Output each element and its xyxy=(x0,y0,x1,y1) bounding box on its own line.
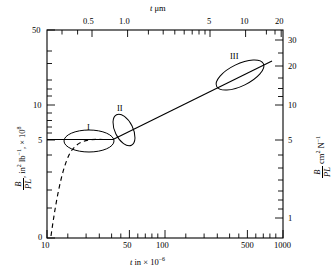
top-tick-label-1: 1.0 xyxy=(119,17,130,26)
right-tick-label-3: 5 xyxy=(288,136,292,145)
top-tick-label-4: 20 xyxy=(275,17,284,26)
right-tick-label-4: 1 xyxy=(288,214,292,223)
region-ellipse-I xyxy=(64,130,114,152)
top-axis-title: t μm xyxy=(150,4,166,13)
right-axis-title-sup1: 2 xyxy=(315,151,321,154)
bottom-axis-title-exp: −6 xyxy=(159,256,165,262)
right-axis-title-text: cm xyxy=(316,154,326,167)
left-axis-ticks xyxy=(47,30,55,238)
right-axis-title-sup2: −1 xyxy=(315,136,321,142)
bottom-tick-label-2: 100 xyxy=(156,241,169,250)
series-rising-line xyxy=(113,61,272,140)
bottom-axis-ticks xyxy=(47,230,283,238)
series-extrapolated-lower-branch xyxy=(51,139,103,236)
left-tick-label-1: 10 xyxy=(33,101,42,110)
left-axis-title-sup3: 8 xyxy=(16,126,22,129)
right-axis-title-fraction: B PL xyxy=(313,166,331,178)
top-tick-label-2: 5 xyxy=(207,17,211,26)
left-axis-title-text2: lb xyxy=(17,155,27,164)
bottom-axis-title: t in × 10−6 xyxy=(130,256,165,267)
top-tick-label-3: 10 xyxy=(240,17,249,26)
region-label-I: I xyxy=(87,122,90,132)
left-axis-title-sup1: 2 xyxy=(16,164,22,167)
plot-frame xyxy=(47,30,283,238)
bottom-tick-label-1: 50 xyxy=(123,241,132,250)
figure-container: 10 50 100 500 1000 t in × 10−6 0.5 1.0 5… xyxy=(0,0,335,274)
right-axis-title-denominator: PL xyxy=(323,166,332,178)
left-axis-title-fraction: B PL xyxy=(14,178,32,190)
bottom-tick-label-3: 500 xyxy=(241,241,254,250)
bottom-axis-title-text: in × 10 xyxy=(132,257,158,267)
right-tick-label-1: 20 xyxy=(288,62,297,71)
right-tick-label-2: 10 xyxy=(288,101,297,110)
left-axis-title-sup2: −1 xyxy=(16,149,22,155)
left-axis-title: B PL , in2 lb−1, × 108 xyxy=(14,126,32,190)
top-axis-title-text: μm xyxy=(152,3,165,13)
left-axis-title-denominator: PL xyxy=(24,178,33,190)
bottom-tick-label-0: 10 xyxy=(41,241,50,250)
region-label-III: III xyxy=(230,51,239,61)
region-label-II: II xyxy=(117,103,123,113)
left-tick-label-3: 0 xyxy=(38,233,42,242)
left-tick-label-0: 50 xyxy=(32,26,41,35)
left-axis-title-text3: , × 10 xyxy=(17,129,27,149)
right-tick-label-0: 30 xyxy=(288,36,297,45)
bottom-tick-label-4: 1000 xyxy=(274,241,291,250)
top-tick-label-0: 0.5 xyxy=(83,17,94,26)
right-axis-ticks xyxy=(275,40,283,218)
right-axis-title: B PL cm2 N−1 xyxy=(313,136,331,178)
top-axis-ticks xyxy=(62,30,281,37)
right-axis-title-text2: N xyxy=(316,142,326,150)
region-ellipse-III xyxy=(212,54,268,97)
left-tick-label-2: 5 xyxy=(38,136,42,145)
left-axis-title-text: , in xyxy=(17,167,27,178)
chart-plot-svg xyxy=(0,0,335,274)
